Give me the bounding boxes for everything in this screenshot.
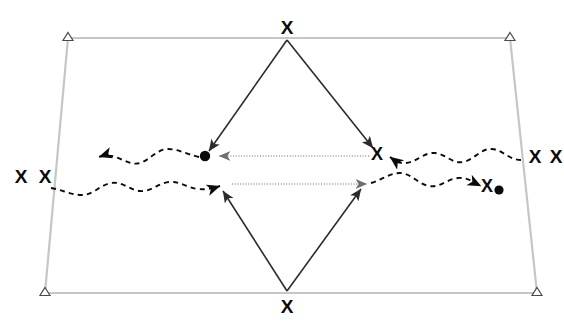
marker-x-left-outer-2: X: [39, 166, 52, 187]
diamond-edge-bottom-right: [287, 189, 361, 291]
diamond-edge-bottom-left: [223, 191, 287, 291]
open-triangle-icon-top-right: [505, 33, 515, 41]
marker-dot-left-inner: [200, 151, 210, 161]
marker-x-top-vertex: X: [281, 17, 294, 38]
diagram-svg: X X X X X X X X: [0, 0, 564, 333]
quadrilateral-boundary: [45, 38, 537, 293]
dotted-arrows: [219, 156, 369, 184]
point-markers: X X X X X X X X: [15, 17, 563, 317]
marker-x-right-inner: X: [371, 144, 383, 164]
upper-wavy-line-right: [390, 149, 521, 163]
open-triangle-icon-bottom-right: [532, 288, 542, 296]
marker-x-right-endpoint: X: [481, 176, 493, 196]
marker-x-bottom-vertex: X: [281, 296, 294, 317]
boundary-outline: [45, 38, 537, 293]
corner-triangle-markers: [40, 33, 542, 296]
diamond-edge-top-left: [209, 40, 287, 151]
marker-dot-right-endpoint: [494, 185, 503, 194]
lower-wavy-line-left: [51, 182, 220, 195]
lower-wavy-line-right: [371, 173, 481, 186]
dashed-wavy-lines: [51, 149, 521, 195]
marker-x-right-outer-1: X: [529, 146, 542, 167]
diamond-edge-top-right: [287, 40, 373, 148]
diagram-canvas: X X X X X X X X: [0, 0, 564, 333]
diamond-solid-arrows: [209, 40, 373, 291]
open-triangle-icon-top-left: [63, 33, 73, 41]
open-triangle-icon-bottom-left: [40, 288, 50, 296]
marker-x-left-outer-1: X: [15, 166, 28, 187]
upper-wavy-line-left: [99, 149, 199, 164]
marker-x-right-outer-2: X: [550, 146, 563, 167]
